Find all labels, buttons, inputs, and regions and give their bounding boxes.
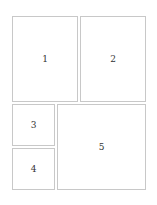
panel-label: 4 bbox=[31, 164, 37, 174]
panel-4: 4 bbox=[12, 148, 55, 190]
panel-1: 1 bbox=[12, 16, 78, 102]
panel-5: 5 bbox=[57, 104, 146, 190]
panel-label: 3 bbox=[31, 120, 37, 130]
panel-3: 3 bbox=[12, 104, 55, 146]
panel-label: 5 bbox=[99, 142, 105, 152]
panel-label: 2 bbox=[110, 54, 116, 64]
panel-label: 1 bbox=[42, 54, 48, 64]
panel-2: 2 bbox=[80, 16, 146, 102]
